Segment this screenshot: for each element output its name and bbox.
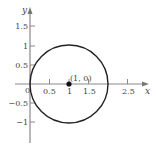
y-axis-arrow-icon xyxy=(28,7,33,14)
y-tick-label: 1 xyxy=(23,42,28,51)
y-tick-label: −0.5 xyxy=(9,99,28,108)
x-tick-label: 0.5 xyxy=(43,87,56,96)
point-label: (1, 0) xyxy=(70,74,92,83)
x-tick-label: 1.5 xyxy=(83,87,96,96)
y-tick-label: −1 xyxy=(16,118,28,127)
x-axis-label: x xyxy=(145,86,150,96)
x-tick-label: 1 xyxy=(67,87,72,96)
y-tick-label: 0.5 xyxy=(15,61,28,70)
origin-label: 0 xyxy=(25,86,30,95)
y-tick-label: 1.5 xyxy=(15,22,28,31)
y-axis-label: y xyxy=(21,5,28,15)
x-tick-label: 2.5 xyxy=(122,87,135,96)
circle-diagram: y x 0 0.5 1 1.5 2.5 1.5 1 0.5 −0.5 −1 (1… xyxy=(0,0,158,156)
